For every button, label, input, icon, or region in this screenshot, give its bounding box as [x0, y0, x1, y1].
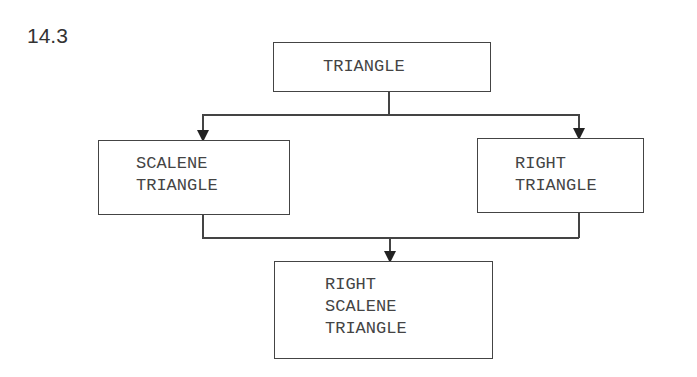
node-right-label-line1: RIGHT	[515, 153, 566, 175]
node-scalene-triangle: SCALENE TRIANGLE	[98, 140, 290, 215]
node-right-label-line2: TRIANGLE	[515, 175, 597, 197]
connector-right-down	[578, 212, 580, 238]
node-bottom-label-line1: RIGHT	[325, 274, 376, 296]
node-triangle-label: TRIANGLE	[323, 56, 405, 78]
node-scalene-label-line1: SCALENE	[136, 153, 207, 175]
node-triangle: TRIANGLE	[273, 42, 491, 92]
figure-label: 14.3	[27, 24, 68, 48]
connector-top-horizontal	[202, 114, 579, 116]
node-bottom-label-line2: SCALENE	[325, 296, 396, 318]
connector-root-down	[388, 91, 390, 115]
connector-bottom-horizontal	[202, 237, 579, 239]
connector-left-down	[202, 214, 204, 238]
node-scalene-label-line2: TRIANGLE	[136, 175, 218, 197]
node-right-scalene-triangle: RIGHT SCALENE TRIANGLE	[274, 261, 493, 359]
node-right-triangle: RIGHT TRIANGLE	[477, 138, 644, 213]
node-bottom-label-line3: TRIANGLE	[325, 318, 407, 340]
